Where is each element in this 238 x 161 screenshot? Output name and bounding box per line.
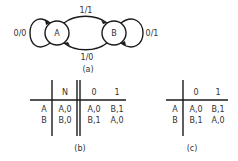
table-c-row-a-c0: A,0 <box>189 105 202 114</box>
table-b-row-b-c0: B,1 <box>87 116 100 125</box>
table-c-row-b-c0: B,1 <box>189 116 202 125</box>
table-b-row-a-n: A,0 <box>58 105 71 114</box>
table-c-row-a-c1: B,1 <box>211 105 224 114</box>
caption-c: (c) <box>187 144 198 153</box>
state-diagram: A B 0/0 1/1 1/0 0/1 (a) <box>14 6 159 74</box>
label-1-0: 1/0 <box>81 53 94 62</box>
table-b-row-b-state: B <box>41 116 47 125</box>
table-c-row-b-c1: A,0 <box>211 116 224 125</box>
table-c-header-1: 1 <box>215 88 220 97</box>
caption-b: (b) <box>74 144 85 153</box>
table-b-row-a-c1: B,1 <box>110 105 123 114</box>
state-a-label: A <box>54 29 60 38</box>
caption-a: (a) <box>82 65 93 74</box>
table-c-row-b-state: B <box>172 116 178 125</box>
table-c-header-0: 0 <box>193 88 198 97</box>
table-b-row-b-n: B,0 <box>58 116 71 125</box>
table-b-header-1: 1 <box>114 88 119 97</box>
table-b-header-0: 0 <box>91 88 96 97</box>
transition-b-to-a <box>64 43 107 50</box>
table-b-row-b-c1: A,0 <box>110 116 123 125</box>
figure: A B 0/0 1/1 1/0 0/1 (a) N 0 1 A A,0 A,0 … <box>0 0 238 161</box>
table-b-row-a-c0: A,0 <box>87 105 100 114</box>
table-c: 0 1 A A,0 B,1 B B,1 A,0 (c) <box>166 80 228 153</box>
table-b-row-a-state: A <box>41 105 47 114</box>
table-b: N 0 1 A A,0 A,0 B,1 B B,0 B,1 A,0 (b) <box>30 80 126 153</box>
transition-a-to-b <box>64 16 107 23</box>
table-c-row-a-state: A <box>172 105 178 114</box>
table-b-header-n: N <box>62 88 68 97</box>
label-0-0: 0/0 <box>14 29 27 38</box>
label-0-1: 0/1 <box>146 29 159 38</box>
state-b-label: B <box>111 29 117 38</box>
label-1-1: 1/1 <box>80 6 93 15</box>
